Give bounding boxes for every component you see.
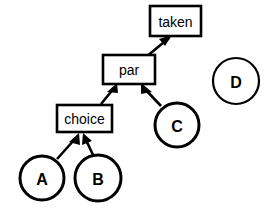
box-node-par[interactable]: par xyxy=(103,55,155,84)
edge-c-to-par xyxy=(141,83,161,106)
circle-node-d[interactable]: D xyxy=(213,58,259,104)
circle-node-a[interactable]: A xyxy=(20,156,64,200)
circle-label-d: D xyxy=(230,74,242,91)
diagram-svg: taken par choice A B C D xyxy=(0,0,274,217)
circle-node-b[interactable]: B xyxy=(75,155,121,201)
box-node-choice[interactable]: choice xyxy=(57,105,112,132)
circle-label-b: B xyxy=(92,171,104,188)
edge-a-to-choice xyxy=(57,133,80,159)
circle-label-a: A xyxy=(36,171,48,188)
edge-b-to-choice xyxy=(82,133,94,157)
edge-choice-to-par xyxy=(101,83,118,104)
box-label-par: par xyxy=(119,62,140,78)
box-node-taken[interactable]: taken xyxy=(150,6,201,36)
edge-group xyxy=(57,35,172,159)
circle-node-c[interactable]: C xyxy=(155,103,199,147)
diagram-canvas: taken par choice A B C D xyxy=(0,0,274,217)
box-label-choice: choice xyxy=(64,111,105,127)
box-label-taken: taken xyxy=(158,14,192,30)
circle-label-c: C xyxy=(171,118,183,135)
